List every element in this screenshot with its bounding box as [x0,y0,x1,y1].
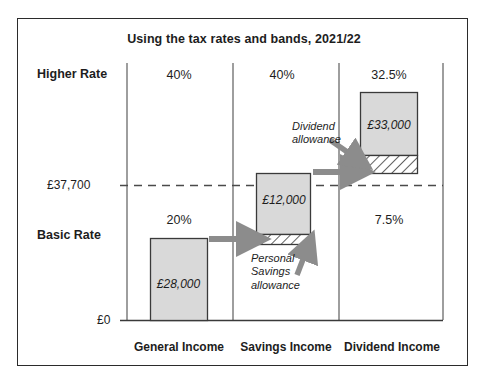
rate-general-basic: 20% [150,213,208,228]
rate-general-higher: 40% [150,68,208,83]
rate-dividend-basic: 7.5% [360,213,418,228]
x-axis-label-dividend-income: Dividend Income [337,340,447,354]
annotation-psa-line-3: allowance [251,279,300,292]
bar-value-savings-income: £12,000 [257,193,311,207]
x-axis-label-savings-income: Savings Income [231,340,341,354]
annotation-psa-line-2: Savings [251,265,300,278]
page-title: Using the tax rates and bands, 2021/22 [0,32,488,47]
y-axis-tick-threshold: £37,700 [47,178,90,192]
annotation-div-line-2: allowance [292,133,341,146]
annotation-div-line-1: Dividend [292,120,341,133]
annotation-personal-savings-allowance: Personal Savings allowance [251,252,300,292]
band-label-basic-rate: Basic Rate [37,228,101,243]
bar-value-dividend-income: £33,000 [360,118,418,132]
chart-screenshot: Using the tax rates and bands, 2021/22 H… [0,0,488,387]
y-axis-tick-zero: £0 [97,313,110,327]
band-label-higher-rate: Higher Rate [37,67,107,82]
x-axis-label-general-income: General Income [124,340,234,354]
annotation-dividend-allowance: Dividend allowance [292,120,341,147]
rate-savings-higher: 40% [253,68,311,83]
rate-dividend-higher: 32.5% [360,68,418,83]
annotation-psa-line-1: Personal [251,252,300,265]
bar-value-general-income: £28,000 [150,277,207,291]
